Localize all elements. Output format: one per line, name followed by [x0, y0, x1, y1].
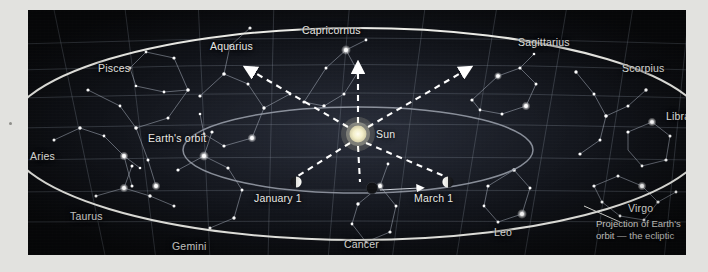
- earth-january-1: [290, 176, 301, 187]
- earth-march-1: [442, 176, 453, 187]
- ecliptic-caption-line-2: orbit — the ecliptic: [596, 230, 681, 242]
- constellation-label-aries: Aries: [30, 150, 55, 162]
- constellation-label-capricornus: Capricornus: [302, 24, 361, 36]
- ecliptic-caption-line-1: Projection of Earth's: [596, 218, 681, 230]
- constellation-label-scorpius: Scorpius: [622, 62, 664, 74]
- constellation-label-gemini: Gemini: [172, 240, 206, 252]
- constellation-label-leo: Leo: [494, 226, 512, 238]
- sun-label: Sun: [376, 128, 395, 140]
- earth-midpoint: [366, 182, 378, 194]
- constellation-label-pisces: Pisces: [98, 62, 130, 74]
- date-label-march-1: March 1: [414, 192, 453, 204]
- star-field-scene: Pisces Aquarius Capricornus Sagittarius …: [28, 10, 686, 255]
- constellation-label-virgo: Virgo: [628, 202, 653, 214]
- ecliptic-caption: Projection of Earth's orbit — the eclipt…: [596, 218, 681, 241]
- constellation-label-libra: Libra: [666, 110, 686, 122]
- diagram-canvas: [28, 10, 686, 255]
- constellation-label-aquarius: Aquarius: [210, 40, 253, 52]
- earth-orbit-label: Earth's orbit: [148, 132, 206, 144]
- date-label-january-1: January 1: [254, 192, 302, 204]
- constellation-label-sagittarius: Sagittarius: [518, 36, 570, 48]
- figure-page: Pisces Aquarius Capricornus Sagittarius …: [0, 0, 708, 272]
- page-edge-mark-left: [9, 122, 12, 125]
- constellation-label-cancer: Cancer: [344, 238, 379, 250]
- sun-body: [341, 117, 375, 151]
- constellation-label-taurus: Taurus: [70, 210, 103, 222]
